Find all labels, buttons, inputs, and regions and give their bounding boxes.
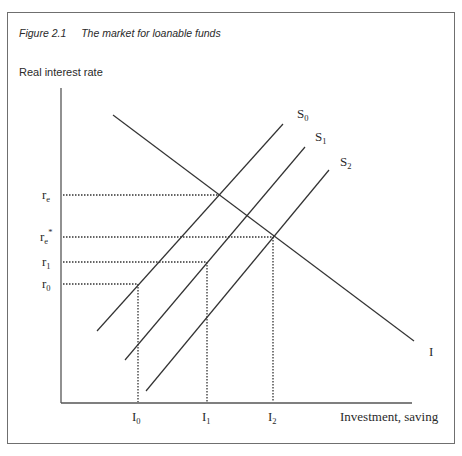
label-s2: S2	[340, 154, 351, 171]
xtick-i2: I2	[268, 409, 277, 426]
curve-s1	[125, 147, 305, 360]
xtick-i1: I1	[202, 409, 211, 426]
loanable-funds-diagram: S0 S1 S2 I re re* r1 r0 I0 I1 I2 Investm…	[0, 0, 462, 456]
label-s1: S1	[315, 129, 326, 146]
ytick-re-star: re*	[40, 227, 52, 246]
ytick-r0: r0	[42, 276, 51, 293]
label-i: I	[429, 344, 433, 359]
x-axis-label: Investment, saving	[340, 409, 439, 424]
xtick-i0: I0	[132, 409, 141, 426]
ytick-re: re	[42, 187, 50, 204]
curve-s0	[97, 124, 283, 331]
ytick-r1: r1	[42, 254, 51, 271]
curve-investment	[113, 115, 414, 341]
label-s0: S0	[297, 106, 308, 123]
curve-s2	[146, 170, 329, 391]
